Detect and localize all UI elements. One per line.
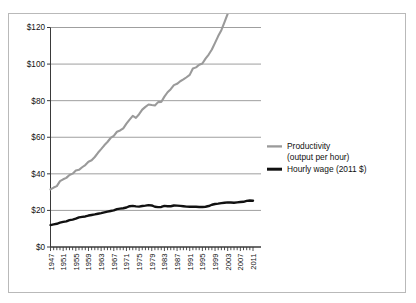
x-tick-label-1967: 1967 xyxy=(110,254,119,271)
y-tick-label-0: $0 xyxy=(36,243,46,252)
x-tick-label-1947: 1947 xyxy=(47,254,56,271)
x-tick-label-1971: 1971 xyxy=(122,254,131,271)
x-tick-label-1995: 1995 xyxy=(198,254,207,271)
x-tick-label-1963: 1963 xyxy=(97,254,106,271)
x-tick-label-1959: 1959 xyxy=(84,254,93,271)
x-tick-label-1955: 1955 xyxy=(72,254,81,271)
y-tick-marks xyxy=(47,28,51,248)
y-tick-label-80: $80 xyxy=(31,97,45,106)
data-series-group xyxy=(51,14,254,225)
x-tick-label-1983: 1983 xyxy=(160,254,169,271)
x-tick-label-1999: 1999 xyxy=(211,254,220,271)
x-tick-label-2003: 2003 xyxy=(224,254,233,271)
productivity-vs-wage-line-chart: $0$20$40$60$80$100$120 19471951195519591… xyxy=(9,14,407,294)
y-tick-label-100: $100 xyxy=(27,60,46,69)
x-tick-label-1975: 1975 xyxy=(135,254,144,271)
x-tick-marks xyxy=(51,247,254,251)
x-axis-tick-labels: 1947195119551959196319671971197519791983… xyxy=(47,254,259,271)
gridlines-group xyxy=(51,28,262,248)
x-tick-label-1951: 1951 xyxy=(59,254,68,271)
y-tick-label-20: $20 xyxy=(31,206,45,215)
x-tick-label-2011: 2011 xyxy=(249,254,258,270)
y-tick-label-60: $60 xyxy=(31,133,45,142)
series-line-productivity xyxy=(51,14,254,189)
x-tick-label-2007: 2007 xyxy=(236,254,245,271)
legend-label-hourly-wage: Hourly wage (2011 $) xyxy=(287,164,367,174)
y-tick-label-120: $120 xyxy=(27,23,46,32)
y-axis-tick-labels: $0$20$40$60$80$100$120 xyxy=(27,23,46,252)
y-tick-label-40: $40 xyxy=(31,170,45,179)
legend-label-productivity-line2: (output per hour) xyxy=(287,152,350,162)
chart-legend: Productivity(output per hour)Hourly wage… xyxy=(267,141,367,174)
x-tick-label-1987: 1987 xyxy=(173,254,182,271)
x-tick-label-1979: 1979 xyxy=(148,254,157,271)
series-line-hourly-wage xyxy=(51,201,254,226)
x-tick-label-1991: 1991 xyxy=(186,254,195,271)
chart-frame: $0$20$40$60$80$100$120 19471951195519591… xyxy=(8,13,406,293)
legend-label-productivity: Productivity xyxy=(287,141,331,151)
